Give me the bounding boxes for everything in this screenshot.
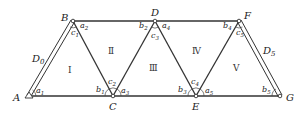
- arc-b1: [105, 89, 109, 96]
- node-f: [237, 19, 241, 23]
- angle-b4: b4: [223, 21, 232, 31]
- label-f: F: [243, 10, 252, 21]
- edge-c-d: [113, 21, 155, 96]
- edge-b-c: [73, 21, 113, 96]
- triangle-label-iv: Ⅳ: [192, 46, 202, 56]
- label-d: D: [150, 7, 159, 18]
- label-a: A: [12, 92, 20, 103]
- edge-d-e: [155, 21, 196, 96]
- node-g: [278, 94, 282, 98]
- node-e: [194, 94, 198, 98]
- arc-c4: [192, 88, 200, 89]
- angle-c5: c5: [236, 28, 244, 38]
- triangle-label-ii: Ⅱ: [108, 46, 114, 56]
- node-c: [111, 94, 115, 98]
- arc-c2: [109, 88, 117, 89]
- angle-c3: c3: [151, 31, 159, 41]
- angle-a2: a2: [80, 21, 89, 31]
- label-b: B: [60, 12, 68, 23]
- triangle-label-i: Ⅰ: [68, 65, 72, 75]
- angle-b5: b5: [262, 85, 271, 95]
- angle-a4: a4: [162, 21, 171, 31]
- node-d: [153, 19, 157, 23]
- angle-b3: b3: [178, 85, 187, 95]
- angle-c2: c2: [108, 77, 116, 87]
- angle-b2: b2: [139, 21, 148, 31]
- label-g: G: [286, 92, 294, 103]
- angle-labels: a1 a2 c1 b1 c2 a3 b2 c3 a4 b3 c4 a5 b4 c…: [36, 21, 271, 96]
- arc-b3: [188, 89, 192, 96]
- edge-f-g-line2: [241, 20, 282, 95]
- edge-e-f: [196, 21, 239, 96]
- label-d5: D5: [262, 45, 276, 58]
- label-e: E: [191, 101, 200, 112]
- label-c: C: [109, 101, 117, 112]
- label-d0: D0: [31, 53, 45, 66]
- angle-b1: b1: [96, 85, 105, 95]
- angle-a1: a1: [36, 86, 44, 96]
- triangulation-diagram: A B C D E F G D0 D5 Ⅰ Ⅱ Ⅲ Ⅳ Ⅴ a1 a2 c1 b…: [0, 0, 302, 115]
- triangle-label-iii: Ⅲ: [149, 63, 158, 73]
- angle-a5: a5: [205, 86, 214, 96]
- triangle-label-v: Ⅴ: [232, 63, 240, 73]
- arc-b5: [272, 89, 276, 96]
- angle-c4: c4: [191, 77, 199, 87]
- angle-a3: a3: [121, 86, 130, 96]
- node-b: [71, 19, 75, 23]
- arc-a5: [200, 89, 204, 96]
